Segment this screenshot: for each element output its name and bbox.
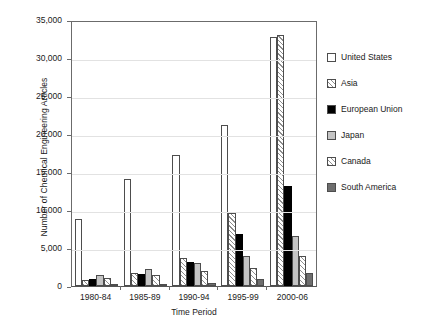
x-axis-tick-label: 1985-89 bbox=[120, 292, 169, 302]
bar bbox=[250, 268, 257, 286]
legend-swatch-icon bbox=[327, 131, 336, 140]
legend-swatch-icon bbox=[327, 157, 336, 166]
bar bbox=[299, 256, 306, 286]
gridline bbox=[72, 98, 316, 99]
x-axis-tick-label: 1990-94 bbox=[169, 292, 218, 302]
legend-swatch-icon bbox=[327, 79, 336, 88]
x-axis-tick-labels: 1980-841985-891990-941995-992000-06 bbox=[71, 292, 317, 302]
bar bbox=[292, 236, 299, 286]
bar bbox=[124, 179, 131, 286]
legend-item[interactable]: Canada bbox=[327, 148, 439, 174]
bar bbox=[208, 283, 215, 286]
bar bbox=[221, 125, 228, 286]
bar bbox=[96, 275, 103, 286]
bar bbox=[89, 279, 96, 286]
x-axis-tick-mark bbox=[169, 286, 170, 290]
legend-item[interactable]: European Union bbox=[327, 96, 439, 122]
y-axis-tick-label: 0 bbox=[57, 281, 62, 291]
bar bbox=[243, 256, 250, 286]
x-axis-tick-label: 1980-84 bbox=[71, 292, 120, 302]
legend-item-label: Asia bbox=[341, 78, 358, 88]
x-axis-tick-mark bbox=[120, 286, 121, 290]
bar bbox=[152, 275, 159, 286]
bar bbox=[187, 262, 194, 286]
gridline bbox=[72, 136, 316, 137]
y-axis-tick-label: 10,000 bbox=[36, 205, 62, 215]
bar bbox=[270, 37, 277, 286]
x-axis-tick-label: 1995-99 bbox=[219, 292, 268, 302]
legend-item-label: United States bbox=[341, 52, 392, 62]
bar bbox=[111, 284, 118, 286]
legend-swatch-icon bbox=[327, 105, 336, 114]
bar-group bbox=[170, 22, 219, 286]
legend-item[interactable]: United States bbox=[327, 44, 439, 70]
bar bbox=[201, 271, 208, 286]
legend-swatch-icon bbox=[327, 53, 336, 62]
gridline bbox=[72, 250, 316, 251]
y-axis-tick-label: 35,000 bbox=[36, 15, 62, 25]
y-axis-tick-label: 5,000 bbox=[41, 243, 62, 253]
bar-group bbox=[72, 22, 121, 286]
bar bbox=[180, 258, 187, 286]
bar-group bbox=[267, 22, 316, 286]
x-axis-tick-label: 2000-06 bbox=[268, 292, 317, 302]
bar bbox=[236, 234, 243, 286]
legend-item-label: Canada bbox=[341, 156, 371, 166]
bar bbox=[75, 219, 82, 286]
bar-group bbox=[121, 22, 170, 286]
bar bbox=[160, 284, 167, 286]
gridline bbox=[72, 174, 316, 175]
legend-swatch-icon bbox=[327, 183, 336, 192]
bar bbox=[145, 269, 152, 286]
gridline bbox=[72, 60, 316, 61]
chart-legend: United StatesAsiaEuropean UnionJapanCana… bbox=[327, 44, 439, 200]
y-axis-tick-label: 25,000 bbox=[36, 91, 62, 101]
bar bbox=[257, 279, 264, 286]
y-axis-tick-label: 15,000 bbox=[36, 167, 62, 177]
bar bbox=[131, 273, 138, 286]
y-axis-tick-label: 30,000 bbox=[36, 53, 62, 63]
legend-item-label: European Union bbox=[341, 104, 402, 114]
bar bbox=[306, 273, 313, 286]
bar bbox=[82, 280, 89, 286]
legend-item[interactable]: South America bbox=[327, 174, 439, 200]
x-axis-title: Time Period bbox=[71, 307, 317, 317]
bar bbox=[194, 263, 201, 286]
bar bbox=[277, 35, 284, 286]
legend-item[interactable]: Japan bbox=[327, 122, 439, 148]
legend-item-label: Japan bbox=[341, 130, 364, 140]
y-axis-tick-label: 20,000 bbox=[36, 129, 62, 139]
x-axis-tick-mark bbox=[266, 286, 267, 290]
x-axis-tick-mark bbox=[217, 286, 218, 290]
bar bbox=[138, 274, 145, 286]
y-axis-tick-mark bbox=[67, 287, 71, 288]
gridline bbox=[72, 212, 316, 213]
legend-item-label: South America bbox=[341, 182, 396, 192]
chart-figure: Number of Chemical Engineering Articles … bbox=[0, 0, 439, 328]
bar-groups bbox=[72, 22, 316, 286]
legend-item[interactable]: Asia bbox=[327, 70, 439, 96]
bar bbox=[104, 278, 111, 286]
bar-group bbox=[218, 22, 267, 286]
plot-area bbox=[71, 21, 317, 287]
bar bbox=[284, 186, 291, 286]
y-axis-ticks: 05,00010,00015,00020,00025,00030,00035,0… bbox=[0, 21, 71, 287]
